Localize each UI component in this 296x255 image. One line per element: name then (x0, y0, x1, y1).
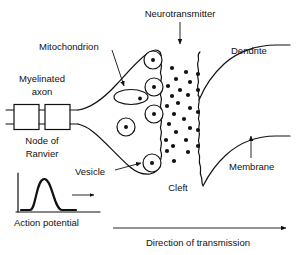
receptor-dot (196, 110, 200, 114)
annotation-membrane: Membrane (229, 136, 274, 172)
mitochondrion-label: Mitochondrion (39, 41, 99, 52)
vesicle (145, 105, 163, 123)
neurotransmitter-dot (174, 130, 178, 134)
action-potential-inset: Action potential (14, 173, 100, 228)
neurotransmitter-dot (174, 77, 178, 81)
neurotransmitter-dot (165, 149, 169, 153)
vesicle-core-dot (152, 112, 156, 116)
neurotransmitter-dot (170, 94, 174, 98)
dendrite-label: Dendrite (231, 45, 267, 56)
vesicle-core-dot (152, 85, 156, 89)
direction-of-transmission-label: Direction of transmission (146, 237, 250, 248)
vesicle-core-dot (124, 125, 128, 129)
neurotransmitter-dot (167, 122, 171, 126)
neurotransmitter-dot (186, 150, 190, 154)
vesicle-core-dot (151, 58, 155, 62)
node-of-ranvier-label-line1: Node of (25, 135, 59, 146)
neurotransmitter-dot (188, 80, 192, 84)
neurotransmitter-dot (170, 66, 174, 70)
neurotransmitter-dot (166, 84, 170, 88)
neurotransmitter-dot (184, 70, 188, 74)
synapse-diagram: Neurotransmitter Mitochondrion Myelinate… (0, 0, 296, 255)
annotation-node-of-ranvier: Node of Ranvier (25, 135, 59, 159)
receptor-dot (196, 88, 200, 92)
neurotransmitter-dot (182, 117, 186, 121)
mitochondrion (114, 90, 148, 105)
myelin-segment-1 (14, 105, 39, 130)
dendrite-lower-contour (198, 100, 290, 186)
action-potential-caption: Action potential (14, 217, 79, 228)
annotation-vesicle: Vesicle (75, 163, 141, 177)
neurotransmitter-dot (165, 104, 169, 108)
neurotransmitter-dot (164, 138, 168, 142)
vesicle-arrow (115, 163, 141, 170)
myelinated-axon-label-line1: Myelinated (19, 73, 65, 84)
diagram-canvas: Neurotransmitter Mitochondrion Myelinate… (0, 0, 296, 255)
neurotransmitter-dot (176, 101, 180, 105)
neurotransmitter-dot (172, 159, 176, 163)
vesicle (144, 51, 162, 69)
annotation-myelinated-axon: Myelinated axon (19, 73, 65, 97)
vesicle-core-dot (150, 161, 154, 165)
neurotransmitter-molecules (164, 66, 192, 163)
node-of-ranvier-label-line2: Ranvier (26, 148, 59, 159)
neurotransmitter-dot (171, 144, 175, 148)
receptor-dot (196, 72, 200, 76)
cleft-label: Cleft (168, 182, 188, 193)
neurotransmitter-dot (188, 106, 192, 110)
myelinated-axon (6, 105, 78, 130)
neurotransmitter-dot (172, 112, 176, 116)
mitochondrion-arrow (112, 50, 124, 86)
vesicle (143, 154, 161, 172)
myelin-segment-2 (45, 105, 70, 130)
neurotransmitter-dot (184, 138, 188, 142)
annotation-neurotransmitter: Neurotransmitter (145, 8, 216, 44)
direction-of-transmission: Direction of transmission (113, 228, 286, 248)
neurotransmitter-dot (178, 88, 182, 92)
mitochondrion-body (114, 90, 148, 105)
neurotransmitter-dot (188, 126, 192, 130)
receptor-dot (196, 128, 200, 132)
membrane-label: Membrane (229, 161, 274, 172)
neurotransmitter-dot (186, 93, 190, 97)
action-potential-curve (21, 179, 76, 210)
vesicle (145, 78, 163, 96)
annotation-dendrite: Dendrite (231, 45, 267, 56)
vesicle-label: Vesicle (75, 166, 105, 177)
neurotransmitter-label: Neurotransmitter (145, 8, 216, 19)
receptor-dot (196, 144, 200, 148)
vesicle (117, 118, 135, 136)
synaptic-vesicles (117, 51, 163, 172)
mitochondrion-dot (138, 97, 142, 101)
myelinated-axon-label-line2: axon (32, 86, 53, 97)
annotation-cleft: Cleft (168, 182, 188, 193)
